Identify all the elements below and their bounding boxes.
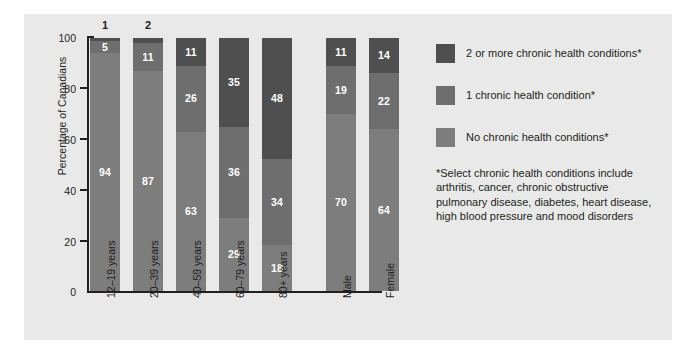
segment-value: 5 xyxy=(102,42,108,53)
y-tick-80 xyxy=(80,87,88,89)
chart-legend: 2 or more chronic health conditions* 1 c… xyxy=(436,44,668,170)
footnote-line: *Select chronic health conditions includ… xyxy=(436,166,664,180)
bar-female[interactable]: 14 22 64 xyxy=(369,38,399,291)
segment-value: 70 xyxy=(335,197,347,208)
x-tick-label-female: Female xyxy=(385,263,396,298)
segment-value: 22 xyxy=(378,96,390,107)
segment-one: 11 xyxy=(133,43,163,71)
chart-footnote: *Select chronic health conditions includ… xyxy=(436,166,664,224)
y-tick-20 xyxy=(80,240,88,242)
segment-none: 70 xyxy=(326,114,356,291)
segment-two-or-more: 35 xyxy=(219,38,249,127)
segment-one: 22 xyxy=(369,73,399,129)
legend-item-one[interactable]: 1 chronic health condition* xyxy=(436,86,668,105)
y-axis-labels: 100 80 60 40 20 0 xyxy=(24,14,76,340)
footnote-line: pulmonary disease, diabetes, heart disea… xyxy=(436,195,664,209)
segment-value: 26 xyxy=(185,93,197,104)
x-tick-label-20-39: 20–39 years xyxy=(149,240,160,298)
footnote-line: high blood pressure and mood disorders xyxy=(436,209,664,223)
y-axis-title: Percentage of Canadians xyxy=(56,36,68,196)
x-tick-label-60-79: 60–79 years xyxy=(235,240,246,298)
segment-two-or-more: 48 xyxy=(262,38,292,159)
segment-value: 19 xyxy=(335,85,347,96)
legend-item-two-or-more[interactable]: 2 or more chronic health conditions* xyxy=(436,44,668,63)
bar-top-label-12-19: 1 xyxy=(90,20,120,31)
segment-two-or-more: 11 xyxy=(176,38,206,66)
segment-one: 19 xyxy=(326,66,356,114)
segment-value: 35 xyxy=(228,77,240,88)
legend-label: 1 chronic health condition* xyxy=(466,86,595,105)
legend-swatch-icon xyxy=(436,86,455,105)
segment-one: 5 xyxy=(90,41,120,54)
legend-item-none[interactable]: No chronic health conditions* xyxy=(436,128,668,147)
x-tick-label-40-59: 40–59 years xyxy=(192,240,203,298)
y-tick-40 xyxy=(80,189,88,191)
plot-area: 1 5 94 2 11 87 11 26 63 35 36 29 48 34 1… xyxy=(88,38,378,291)
bar-male[interactable]: 11 19 70 xyxy=(326,38,356,291)
chart-figure-panel: 100 80 60 40 20 0 Percentage of Canadian… xyxy=(24,14,672,340)
x-tick-label-80-plus: 80+ years xyxy=(278,252,289,298)
y-tick-60 xyxy=(80,138,88,140)
segment-value: 36 xyxy=(228,167,240,178)
footnote-line: arthritis, cancer, chronic obstructive xyxy=(436,180,664,194)
y-tick-label-20: 20 xyxy=(64,237,76,248)
y-tick-label-0: 0 xyxy=(70,287,76,298)
segment-value: 87 xyxy=(142,176,154,187)
x-tick-label-12-19: 12–19 years xyxy=(106,240,117,298)
segment-value: 63 xyxy=(185,206,197,217)
segment-value: 94 xyxy=(99,167,111,178)
segment-value: 14 xyxy=(378,50,390,61)
segment-value: 48 xyxy=(271,93,283,104)
segment-value: 11 xyxy=(142,52,154,63)
segment-value: 64 xyxy=(378,205,390,216)
segment-value: 11 xyxy=(185,47,197,58)
segment-two-or-more: 11 xyxy=(326,38,356,66)
segment-one: 26 xyxy=(176,66,206,132)
segment-value: 11 xyxy=(335,47,347,58)
legend-label: No chronic health conditions* xyxy=(466,128,608,147)
segment-one: 36 xyxy=(219,127,249,218)
bar-top-label-20-39: 2 xyxy=(133,20,163,31)
segment-one: 34 xyxy=(262,159,292,245)
legend-swatch-icon xyxy=(436,128,455,147)
legend-label: 2 or more chronic health conditions* xyxy=(466,44,641,63)
segment-value: 34 xyxy=(271,197,283,208)
x-tick-label-male: Male xyxy=(342,275,353,298)
legend-swatch-icon xyxy=(436,44,455,63)
segment-two-or-more: 14 xyxy=(369,38,399,73)
